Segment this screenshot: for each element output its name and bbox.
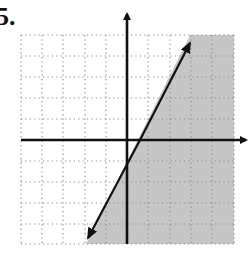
coordinate-plane-graph (0, 0, 252, 258)
